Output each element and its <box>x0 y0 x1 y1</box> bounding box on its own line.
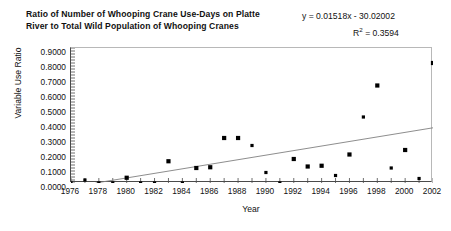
data-point <box>194 166 198 170</box>
data-point <box>250 144 253 147</box>
data-point <box>166 159 170 163</box>
plot-canvas <box>71 48 433 183</box>
regression-r-squared-text: R2 = 0.3594 <box>296 23 446 40</box>
data-point <box>362 115 365 118</box>
r-squared-value: = 0.3594 <box>365 28 399 38</box>
y-tick-label: 0.1000 <box>26 167 66 177</box>
data-point <box>236 136 240 140</box>
regression-equation-text: y = 0.01518x - 30.02002 <box>296 10 446 23</box>
data-point <box>278 181 281 183</box>
data-point <box>83 178 86 181</box>
y-tick-label: 0.4000 <box>26 122 66 132</box>
y-tick-label: 0.6000 <box>26 92 66 102</box>
y-tick-label: 0.7000 <box>26 77 66 87</box>
data-point <box>347 152 351 156</box>
data-point <box>375 83 379 87</box>
trendline-segment <box>96 128 433 183</box>
x-axis-title: Year <box>70 204 432 214</box>
data-point <box>139 181 142 183</box>
y-tick-label: 0.9000 <box>26 47 66 57</box>
trendline <box>96 128 433 183</box>
r-squared-exponent: 2 <box>359 26 362 33</box>
data-point <box>97 181 100 183</box>
x-axis-tick-labels: 1976197819801982198419861988199019921994… <box>70 186 434 198</box>
data-point <box>181 181 184 183</box>
data-point <box>208 165 212 169</box>
y-axis-tick-labels: 0.00000.10000.20000.30000.40000.50000.60… <box>26 41 66 188</box>
y-tick-label: 0.5000 <box>26 107 66 117</box>
data-points <box>71 61 433 183</box>
data-point <box>222 136 226 140</box>
y-tick-label: 0.2000 <box>26 152 66 162</box>
data-point <box>292 157 296 161</box>
data-point <box>431 61 433 65</box>
data-point <box>264 171 267 174</box>
data-point <box>417 177 420 180</box>
data-point <box>334 174 337 177</box>
data-point <box>111 181 114 183</box>
chart-title-line-2: Total Wild Population of Whooping Cranes <box>61 21 239 31</box>
plot-area <box>70 47 432 182</box>
regression-annotation: y = 0.01518x - 30.02002 R2 = 0.3594 <box>296 10 446 40</box>
data-point <box>71 181 73 183</box>
y-tick-label: 0.8000 <box>26 62 66 72</box>
data-point <box>390 166 393 169</box>
y-axis-ticks <box>71 48 75 183</box>
x-tick-label: 2002 <box>415 186 449 196</box>
data-point <box>125 176 129 180</box>
data-point <box>153 181 156 183</box>
chart-title: Ratio of Number of Whooping Crane Use-Da… <box>26 9 278 32</box>
data-point <box>306 164 310 168</box>
y-axis-title: Variable Use Ratio <box>13 29 23 137</box>
scatter-chart: Ratio of Number of Whooping Crane Use-Da… <box>0 0 451 231</box>
data-point <box>403 148 407 152</box>
y-tick-label: 0.3000 <box>26 137 66 147</box>
data-point <box>320 164 324 168</box>
